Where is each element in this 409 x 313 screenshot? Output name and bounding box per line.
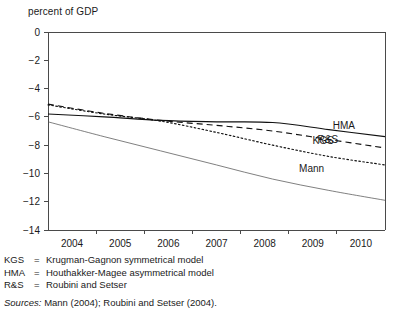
x-tick-label: 2007	[205, 238, 228, 249]
x-axis-ticks: 2004200520062007200820092010	[61, 230, 373, 249]
x-tick-label: 2008	[254, 238, 277, 249]
x-tick-label: 2010	[350, 238, 373, 249]
note-abbr: KGS	[4, 254, 34, 267]
sources-label: Sources:	[4, 297, 42, 308]
chart-notes: KGS=Krugman-Gagnon symmetrical model HMA…	[4, 254, 404, 292]
chart-plot-area: 0−2−4−6−8−10−12−14 200420052006200720082…	[0, 0, 409, 250]
x-tick-label: 2006	[157, 238, 180, 249]
note-row: R&S=Roubini and Setser	[4, 279, 404, 292]
note-equals: =	[34, 254, 46, 267]
note-text: Roubini and Setser	[46, 279, 127, 290]
y-tick-label: −2	[29, 55, 41, 66]
y-tick-label: −10	[23, 168, 40, 179]
x-tick-label: 2009	[302, 238, 325, 249]
note-equals: =	[34, 279, 46, 292]
chart-figure: percent of GDP 0−2−4−6−8−10−12−14 200420…	[0, 0, 409, 313]
x-tick-label: 2004	[61, 238, 84, 249]
y-tick-label: −6	[29, 111, 41, 122]
note-row: KGS=Krugman-Gagnon symmetrical model	[4, 254, 404, 267]
note-text: Krugman-Gagnon symmetrical model	[46, 254, 203, 265]
chart-series-lines	[48, 104, 385, 200]
series-label-r-s: R&S	[318, 134, 339, 145]
y-tick-label: −14	[23, 225, 40, 236]
note-abbr: HMA	[4, 267, 34, 280]
note-row: HMA=Houthakker-Magee asymmetrical model	[4, 267, 404, 280]
y-tick-label: 0	[34, 27, 40, 38]
y-tick-label: −8	[29, 140, 41, 151]
sources-text: Mann (2004); Roubini and Setser (2004).	[44, 297, 217, 308]
chart-sources: Sources: Mann (2004); Roubini and Setser…	[4, 297, 217, 308]
note-abbr: R&S	[4, 279, 34, 292]
y-tick-label: −4	[29, 83, 41, 94]
x-tick-label: 2005	[109, 238, 132, 249]
chart-series-labels: KGSHMAR&SMann	[299, 120, 355, 174]
series-label-hma: HMA	[333, 120, 356, 131]
note-text: Houthakker-Magee asymmetrical model	[46, 267, 214, 278]
chart-axes	[48, 32, 385, 230]
note-equals: =	[34, 267, 46, 280]
y-axis-ticks: 0−2−4−6−8−10−12−14	[23, 27, 48, 236]
y-tick-label: −12	[23, 196, 40, 207]
series-label-mann: Mann	[299, 163, 324, 174]
